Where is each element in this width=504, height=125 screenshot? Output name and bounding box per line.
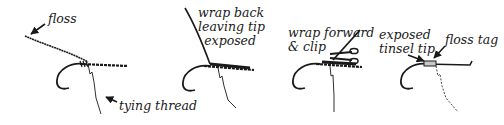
label-wrap-forward: wrap forward & clip [288,26,374,54]
hook-bend-icon [183,66,210,91]
label-floss: floss [48,12,77,26]
hook-bend-icon [401,64,428,89]
label-line: tinsel tip [379,42,435,56]
tying-thread-icon [218,68,236,108]
floss-strand-icon [25,36,88,62]
hook-bend-icon [57,64,84,89]
label-line: wrap back [198,6,256,20]
tying-thread-icon [330,66,334,112]
tying-thread-icon [88,64,101,114]
label-line: exposed [379,28,435,42]
label-floss-tag: floss tag [445,33,498,47]
fly-tying-diagram: floss tying thread wrap back leaving tip… [0,0,504,125]
panel-1 [25,24,128,114]
thread-arrow-icon [106,97,117,102]
label-line: exposed [198,34,256,48]
thread-wraps-icon [80,61,88,67]
label-wrap-back: wrap back leaving tip exposed [198,6,256,48]
label-exposed-tinsel-tip: exposed tinsel tip [379,28,435,56]
floss-arrow-icon [31,24,45,34]
label-line: leaving tip [198,20,256,34]
label-tying-thread: tying thread [119,99,197,113]
label-line: & clip [288,40,374,54]
floss-tag-arrow-icon [434,46,445,58]
label-line: wrap forward [288,26,374,40]
hook-bend-icon [293,64,320,89]
tinsel-tip-icon [424,61,436,66]
tying-thread-icon [436,66,458,112]
